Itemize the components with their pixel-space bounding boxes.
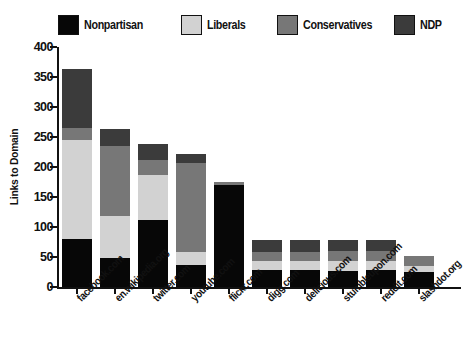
- bar-segment-liberals: [138, 175, 168, 220]
- bar-segment-ndp: [176, 154, 206, 163]
- bar-segment-ndp: [138, 144, 168, 160]
- legend-entry-conservatives: Conservatives: [277, 15, 383, 35]
- stacked-bar-chart: Nonpartisan Liberals Conservatives NDP L…: [0, 0, 466, 353]
- bar-segment-ndp: [100, 129, 130, 146]
- bar-segment-conservatives: [138, 160, 168, 175]
- bar-segment-ndp: [62, 69, 92, 128]
- bar-segment-ndp: [328, 240, 358, 251]
- y-tick-label: 350: [34, 71, 53, 84]
- y-axis-title: Links to Domain: [6, 47, 22, 287]
- y-tick-label: 400: [34, 41, 53, 54]
- bar-segment-conservatives: [252, 252, 282, 261]
- y-tick-label: 0: [47, 281, 53, 294]
- y-tick-label: 200: [34, 161, 53, 174]
- legend-label-conservatives: Conservatives: [303, 19, 372, 32]
- bar-segment-liberals: [100, 216, 130, 258]
- legend-entry-nonpartisan: Nonpartisan: [58, 15, 153, 35]
- bar-segment-conservatives: [176, 163, 206, 252]
- chart-legend: Nonpartisan Liberals Conservatives NDP: [58, 14, 458, 36]
- legend-swatch-liberals: [181, 15, 202, 35]
- bar-segment-conservatives: [100, 146, 130, 216]
- y-tick-label: 150: [34, 191, 53, 204]
- bar-segment-ndp: [252, 240, 282, 252]
- y-tick-label: 100: [34, 221, 53, 234]
- bar-facebook-com: [62, 69, 92, 287]
- legend-label-liberals: Liberals: [207, 19, 245, 32]
- legend-swatch-conservatives: [277, 15, 298, 35]
- legend-swatch-nonpartisan: [58, 15, 79, 35]
- bar-segment-liberals: [176, 252, 206, 265]
- bar-segment-conservatives: [290, 252, 320, 261]
- y-axis-line: [57, 47, 59, 287]
- plot-area: 050100150200250300350400 facebook.comen.…: [57, 47, 461, 287]
- y-tick-label: 250: [34, 131, 53, 144]
- legend-label-ndp: NDP: [420, 19, 442, 32]
- bar-segment-liberals: [62, 140, 92, 239]
- y-tick-label: 50: [40, 251, 53, 264]
- y-axis-title-text: Links to Domain: [8, 129, 20, 205]
- legend-entry-liberals: Liberals: [181, 15, 252, 35]
- bar-segment-ndp: [290, 240, 320, 251]
- y-tick-label: 300: [34, 101, 53, 114]
- legend-swatch-ndp: [394, 15, 415, 35]
- bar-segment-conservatives: [62, 128, 92, 140]
- bar-segment-nonpartisan: [62, 239, 92, 287]
- legend-entry-ndp: NDP: [394, 15, 445, 35]
- legend-label-nonpartisan: Nonpartisan: [84, 19, 143, 32]
